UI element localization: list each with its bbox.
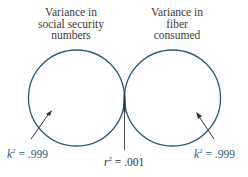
r-squared-label: r2 = .001 [104, 155, 144, 168]
right-arrow-line [198, 115, 214, 139]
left-circle [29, 50, 125, 146]
left-arrow-line [31, 112, 50, 139]
value: = .999 [16, 148, 48, 160]
right-k-squared-label: k2 = .999 [194, 147, 235, 160]
left-arrow-head [46, 110, 52, 116]
value: = .999 [203, 148, 235, 160]
value: = .001 [112, 156, 144, 168]
right-arrow-head [196, 112, 202, 119]
right-circle [125, 50, 221, 146]
left-k-squared-label: k2 = .999 [7, 147, 48, 160]
